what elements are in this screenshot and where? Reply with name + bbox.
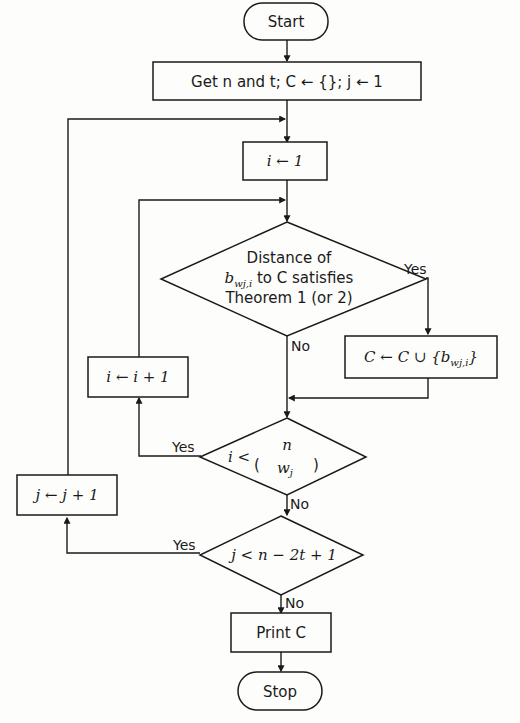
i-increment-process: i ← i + 1 <box>88 357 188 397</box>
j-check-decision: j < n − 2t + 1 <box>200 516 363 595</box>
add-to-c-process: C ← C ∪ {bwj,i} <box>345 336 497 378</box>
init-process: Get n and t; C ← {}; j ← 1 <box>153 62 421 100</box>
distance-line1: Distance of <box>247 249 333 267</box>
start-terminal: Start <box>244 3 328 40</box>
right-paren: ) <box>313 456 319 474</box>
i-check-yes-label: Yes <box>171 439 195 455</box>
start-label: Start <box>268 13 305 31</box>
i-check-lhs: i < <box>228 448 250 466</box>
distance-decision: Distance of bwj,i to C satisfies Theorem… <box>161 222 426 336</box>
j-check-yes-label: Yes <box>172 537 196 553</box>
i-increment-label: i ← i + 1 <box>106 368 169 386</box>
stop-label: Stop <box>263 683 297 701</box>
left-paren: ( <box>254 456 260 474</box>
flowchart: Start Get n and t; C ← {}; j ← 1 i ← 1 D… <box>0 0 520 723</box>
i-check-decision: i < ( ) n wj <box>200 418 366 495</box>
j-increment-process: j ← j + 1 <box>17 475 117 515</box>
init-label: Get n and t; C ← {}; j ← 1 <box>191 73 383 91</box>
i-init-label: i ← 1 <box>267 152 303 170</box>
j-check-label: j < n − 2t + 1 <box>228 546 337 564</box>
j-check-no-label: No <box>285 595 304 611</box>
distance-line3: Theorem 1 (or 2) <box>224 289 352 307</box>
print-label: Print C <box>256 624 306 642</box>
distance-no-label: No <box>291 338 310 354</box>
j-increment-label: j ← j + 1 <box>32 486 98 504</box>
i-check-no-label: No <box>290 496 309 512</box>
print-process: Print C <box>231 613 331 652</box>
distance-yes-label: Yes <box>403 261 427 277</box>
binom-top: n <box>282 436 292 454</box>
stop-terminal: Stop <box>238 672 322 710</box>
i-init-process: i ← 1 <box>243 142 327 180</box>
